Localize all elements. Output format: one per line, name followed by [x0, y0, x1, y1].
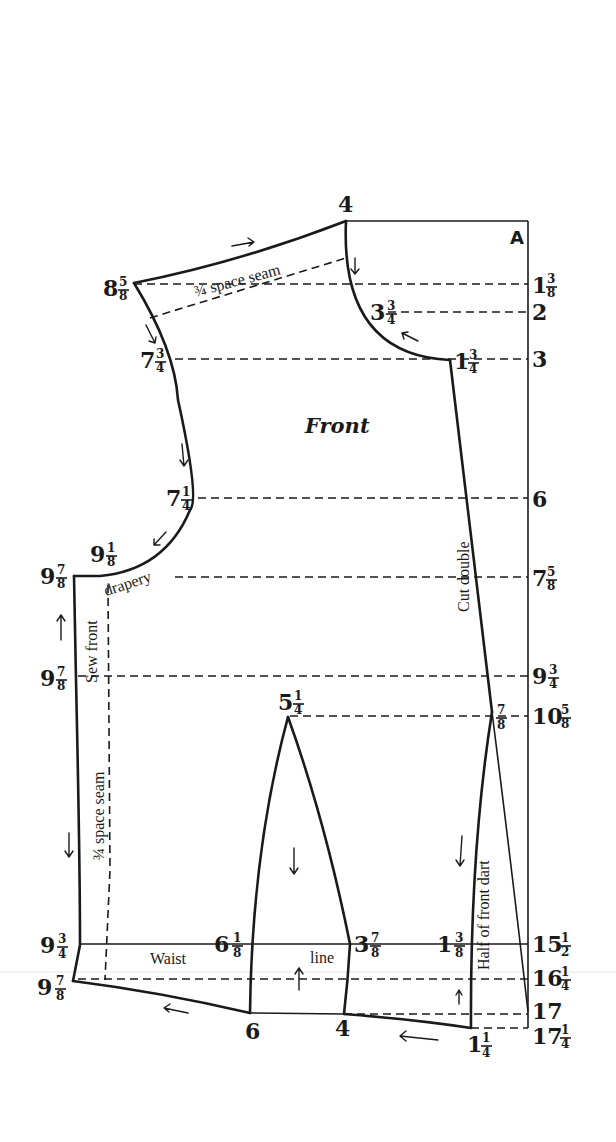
scale-mark: 934 [532, 663, 557, 691]
svg-text:5: 5 [547, 565, 555, 579]
arrow-right-icon [232, 238, 254, 246]
svg-text:1: 1 [107, 541, 115, 555]
svg-text:8: 8 [107, 555, 115, 569]
arrow-down-icon [456, 836, 464, 866]
svg-text:1: 1 [454, 348, 469, 374]
svg-text:3: 3 [469, 348, 477, 362]
armhole-curve [74, 283, 193, 576]
svg-text:1: 1 [233, 931, 241, 945]
svg-text:5: 5 [278, 689, 293, 715]
svg-text:1: 1 [561, 965, 569, 979]
scale-mark: 17 [532, 998, 563, 1024]
half-front-dart-label: Half of front dart [475, 860, 492, 970]
svg-text:8: 8 [547, 286, 555, 300]
scale-mark: 758 [532, 565, 555, 593]
svg-text:1: 1 [294, 689, 302, 703]
svg-text:2: 2 [561, 945, 569, 959]
front-seam-label: ¾ space seam [90, 771, 108, 860]
arrow-down-left-icon [154, 532, 166, 545]
svg-text:1: 1 [467, 1031, 482, 1057]
scale-mark: 1614 [532, 965, 569, 993]
point-dart-right-bottom: 4 [335, 1015, 350, 1041]
svg-text:9: 9 [40, 932, 55, 958]
svg-text:8: 8 [455, 946, 463, 960]
svg-text:4: 4 [482, 1046, 490, 1060]
svg-text:4: 4 [335, 1015, 350, 1041]
pattern-title: Front [304, 413, 370, 438]
svg-text:8: 8 [57, 679, 65, 693]
arrow-down-icon [290, 848, 298, 874]
arrow-down-icon [351, 258, 359, 274]
point-dart-left-bottom: 6 [245, 1018, 260, 1044]
bodice-front-pattern-diagram: Front A ¾ space seam Sew front drapery ¾… [0, 0, 616, 1142]
svg-text:7: 7 [57, 563, 65, 577]
svg-text:9: 9 [40, 665, 55, 691]
svg-text:3: 3 [354, 931, 369, 957]
svg-text:3: 3 [549, 663, 557, 677]
svg-text:7: 7 [166, 485, 181, 511]
svg-text:8: 8 [371, 946, 379, 960]
arrow-down-right-icon [146, 325, 156, 343]
dart-bottom-line [250, 1013, 344, 1014]
svg-text:3: 3 [156, 347, 164, 361]
svg-text:5: 5 [119, 275, 127, 289]
svg-text:1: 1 [561, 931, 569, 945]
arrow-up-icon [57, 615, 65, 640]
svg-text:1: 1 [532, 272, 547, 298]
arrow-left-icon [164, 1004, 188, 1013]
svg-text:4: 4 [58, 947, 66, 961]
svg-text:4: 4 [156, 361, 164, 375]
svg-text:1: 1 [482, 1031, 490, 1045]
svg-text:8: 8 [233, 946, 241, 960]
arrow-up-left-icon [402, 332, 418, 341]
point-armhole-3: 918 [90, 541, 115, 569]
scale-mark: 1512 [532, 931, 569, 959]
svg-text:4: 4 [561, 1037, 569, 1051]
svg-text:9: 9 [532, 663, 547, 689]
svg-text:7: 7 [497, 703, 505, 717]
svg-text:9: 9 [90, 541, 105, 567]
svg-text:7: 7 [371, 931, 379, 945]
point-shoulder: 858 [103, 275, 127, 303]
svg-text:4: 4 [182, 499, 190, 513]
point-underarm: 978 [40, 563, 65, 591]
point-neck-bottom: 134 [454, 348, 477, 376]
front-dart-right-leg [492, 712, 528, 1012]
dart-left-leg [250, 717, 288, 1013]
svg-text:4: 4 [469, 362, 477, 376]
svg-text:3: 3 [547, 272, 555, 286]
svg-text:10: 10 [532, 703, 563, 729]
drapery-label: drapery [102, 568, 154, 600]
point-armhole-1: 734 [140, 347, 164, 375]
scale-mark: 6 [532, 486, 547, 512]
svg-text:9: 9 [37, 974, 52, 1000]
point-neck-top: 4 [338, 191, 353, 217]
scale-mark: 3 [532, 346, 547, 372]
point-side-mid: 978 [40, 665, 65, 693]
pattern-outline [73, 221, 528, 1028]
point-armhole-2: 714 [166, 485, 190, 513]
svg-text:7: 7 [140, 347, 155, 373]
svg-text:8: 8 [57, 577, 65, 591]
svg-text:8: 8 [497, 718, 505, 732]
svg-text:6: 6 [214, 931, 229, 957]
point-neck-mid: 334 [370, 299, 395, 327]
center-front-line [450, 360, 492, 712]
svg-text:4: 4 [338, 191, 353, 217]
bottom-edge-right [344, 1014, 471, 1028]
cut-double-label: Cut double [455, 541, 472, 612]
corner-label-a: A [510, 227, 524, 248]
scale-mark: 1058 [532, 703, 569, 731]
svg-text:2: 2 [532, 299, 547, 325]
fraction-bars [55, 287, 571, 1046]
neckline-curve [346, 221, 450, 360]
svg-text:15: 15 [532, 931, 563, 957]
svg-text:1: 1 [561, 1023, 569, 1037]
svg-text:1: 1 [437, 931, 452, 957]
svg-text:6: 6 [245, 1018, 260, 1044]
shoulder-seam-allowance [150, 258, 346, 318]
svg-text:5: 5 [561, 703, 569, 717]
arrow-down-icon [65, 833, 73, 857]
svg-text:6: 6 [532, 486, 547, 512]
right-scale-measurements: 138 2 3 6 758 934 1058 1512 1614 17 1714 [532, 272, 569, 1051]
